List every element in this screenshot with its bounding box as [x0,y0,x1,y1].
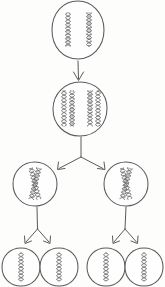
meiosis-diagram [0,0,165,287]
meiosis-diagram-canvas [0,0,165,287]
branch-daughter-left-to-gametes [25,207,51,244]
stage-replicated-cell [53,82,107,136]
stage-parent-cell [52,1,104,59]
branch-daughter-right-to-gametes [113,207,139,244]
stage-daughter-cells [13,162,148,206]
arrow-parent-to-replicated [74,61,84,81]
stage-gamete-cells [2,248,163,286]
branch-replicated-to-daughters [58,137,106,170]
cell-parent-outline [52,1,104,59]
